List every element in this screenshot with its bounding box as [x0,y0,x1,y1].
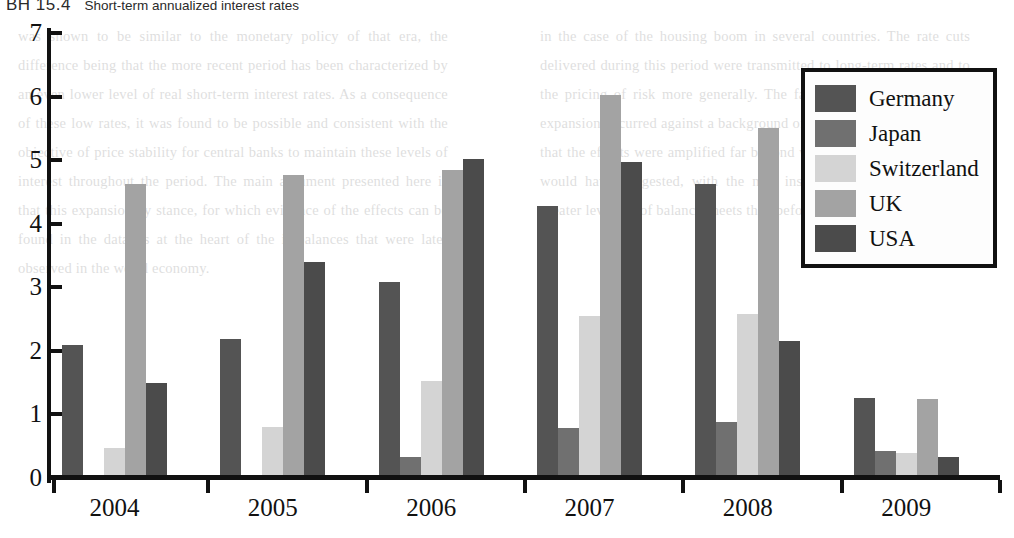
x-axis-tick [840,480,844,493]
x-axis-label-2005: 2005 [213,494,333,522]
bar-uk-2009 [917,399,938,478]
y-axis-label-text: 0 [14,465,42,490]
figure-title: BH 15.4 Short-term annualized interest r… [6,0,299,17]
legend-item-germany[interactable]: Germany [815,81,993,116]
bar-chart: 01234567 200420052006200720082009 German… [0,0,1014,538]
x-axis-tick [523,480,527,493]
legend-item-uk[interactable]: UK [815,186,993,221]
legend-item-switzerland[interactable]: Switzerland [815,151,993,186]
x-axis-label-2004: 2004 [55,494,175,522]
y-axis-tick [51,158,62,162]
bar-germany-2009 [854,398,875,478]
x-axis-tick [998,480,1002,493]
legend-label-germany: Germany [869,87,955,110]
bar-japan-2008 [716,422,737,478]
legend-label-uk: UK [869,192,902,215]
x-axis-label-2006: 2006 [371,494,491,522]
y-axis-tick [51,31,62,35]
bar-usa-2008 [779,341,800,478]
bar-usa-2005 [304,262,325,478]
legend-swatch-uk [815,190,856,217]
bar-uk-2004 [125,184,146,478]
legend-swatch-germany [815,85,856,112]
y-axis-tick [51,285,62,289]
x-axis-tick-origin [52,480,56,493]
bar-switzerland-2008 [737,314,758,478]
bar-usa-2007 [621,162,642,478]
x-axis-label-2009: 2009 [846,494,966,522]
bar-japan-2009 [875,451,896,478]
bar-germany-2008 [695,184,716,478]
figure-title-text: Short-term annualized interest rates [84,0,299,13]
legend-label-usa: USA [869,227,915,250]
legend-label-switzerland: Switzerland [869,157,979,180]
legend-swatch-japan [815,120,856,147]
y-axis-label-text: 4 [14,211,42,236]
legend-item-usa[interactable]: USA [815,221,993,256]
bar-uk-2008 [758,128,779,478]
bar-switzerland-2004 [104,448,125,478]
y-axis-label-text: 5 [14,147,42,172]
y-axis-tick [51,222,62,226]
x-axis-tick [681,480,685,493]
y-axis-tick [51,95,62,99]
x-axis-tick [365,480,369,493]
figure-number: BH 15.4 [6,0,71,14]
x-axis-tick [206,480,210,493]
bar-usa-2006 [463,159,484,478]
bar-uk-2007 [600,95,621,478]
bar-switzerland-2006 [421,381,442,478]
bar-uk-2005 [283,175,304,478]
y-axis-tick [51,349,62,353]
bar-germany-2004 [62,345,83,479]
y-axis-label-text: 7 [14,20,42,45]
bar-japan-2007 [558,428,579,478]
y-axis-label-text: 1 [14,401,42,426]
y-axis-label-text: 2 [14,338,42,363]
bar-uk-2006 [442,170,463,478]
bar-germany-2007 [537,206,558,478]
x-axis-label-2008: 2008 [688,494,808,522]
legend-swatch-usa [815,225,856,252]
x-axis-label-2007: 2007 [530,494,650,522]
chart-legend: GermanyJapanSwitzerlandUKUSA [801,68,997,268]
bar-switzerland-2005 [262,427,283,478]
y-axis-label-text: 6 [14,84,42,109]
y-axis-tick [51,412,62,416]
bar-germany-2005 [220,339,241,478]
legend-label-japan: Japan [869,122,921,145]
bar-usa-2004 [146,383,167,478]
legend-swatch-switzerland [815,155,856,182]
bar-switzerland-2007 [579,316,600,478]
legend-item-japan[interactable]: Japan [815,116,993,151]
y-axis-label-text: 3 [14,274,42,299]
bar-germany-2006 [379,282,400,478]
